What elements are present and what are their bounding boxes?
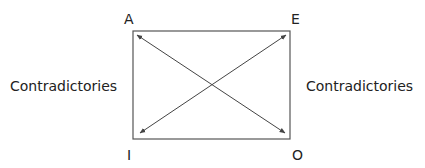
side-label-left: Contradictories [10,79,117,93]
corner-label-a: A [124,12,134,26]
diagonal-e-i-arrow [140,35,286,133]
corner-label-i: I [127,148,131,162]
diagonal-a-o-arrow [137,35,285,133]
side-label-right: Contradictories [306,79,413,93]
corner-label-e: E [291,12,300,26]
corner-label-o: O [292,148,303,162]
